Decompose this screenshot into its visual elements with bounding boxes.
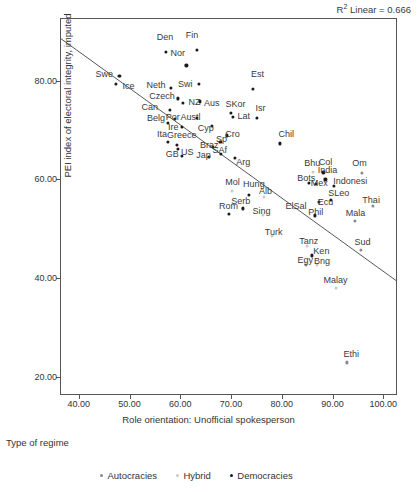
legend-marker-icon <box>100 474 103 477</box>
x-tick-label: 70.00 <box>220 399 243 409</box>
legend-marker-icon <box>176 474 179 477</box>
data-point-label: Greece <box>167 130 197 140</box>
data-point-label: Czech <box>149 91 175 101</box>
data-point-label: Swi <box>178 79 193 89</box>
x-tick-label: 50.00 <box>118 399 141 409</box>
data-point-label: Sud <box>354 237 370 247</box>
data-point-label: Aus <box>204 98 220 108</box>
data-point-label: Cro <box>225 129 240 139</box>
legend-item-label: Democracies <box>237 470 292 481</box>
r-squared-value-text: Linear = 0.666 <box>347 4 411 15</box>
data-point-label: Chil <box>279 129 295 139</box>
data-point-label: Por <box>166 112 180 122</box>
data-point-label: Phil <box>308 207 323 217</box>
data-point-label: Swe <box>95 69 113 79</box>
legend-item[interactable]: Hybrid <box>176 470 211 481</box>
legend-title: Type of regime <box>6 437 69 448</box>
data-point-label: SAf <box>213 145 228 155</box>
data-point-label: Rom <box>219 201 238 211</box>
data-point-label: Belg <box>147 113 165 123</box>
data-point-label: Tanz <box>299 236 318 246</box>
x-tick-label: 60.00 <box>169 399 192 409</box>
data-point-label: US <box>181 147 194 157</box>
y-tick-label: 40.00 <box>34 273 57 283</box>
data-point-label: Ecu <box>318 197 334 207</box>
data-point-label: Est <box>251 69 264 79</box>
data-point-label: Egy <box>297 255 313 265</box>
data-point-label: Ita <box>157 129 167 139</box>
scatter-plot-figure: R2 Linear = 0.666 20.0040.0060.0080.00 4… <box>0 0 417 492</box>
legend-marker-icon <box>230 474 233 477</box>
data-point <box>335 286 338 289</box>
legend-item-label: Autocracies <box>107 470 157 481</box>
data-point-label: Jap <box>196 150 211 160</box>
y-tick-label: 20.00 <box>34 372 57 382</box>
r-squared-annotation: R2 Linear = 0.666 <box>337 3 411 15</box>
data-point-label: Neth <box>146 80 165 90</box>
data-point-label: Mala <box>346 208 366 218</box>
data-point-label: NZ <box>188 97 200 107</box>
data-point-label: Alb <box>259 186 272 196</box>
legend-item-label: Hybrid <box>183 470 210 481</box>
plot-area: 20.0040.0060.0080.00 40.0050.0060.0070.0… <box>60 18 397 395</box>
legend-item[interactable]: Autocracies <box>100 470 157 481</box>
data-point-label: Ken <box>313 246 329 256</box>
x-axis-label: Role orientation: Unofficial spokesperso… <box>0 414 417 425</box>
data-point-label: Isr <box>255 103 265 113</box>
data-point-label: Bng <box>314 256 330 266</box>
data-point-label: Thai <box>362 195 380 205</box>
data-point-label: Malay <box>324 275 348 285</box>
data-point-label: Den <box>157 32 174 42</box>
y-axis-label: PEI index of electoral integrity, impute… <box>62 0 73 211</box>
data-point-label: Cyp <box>198 123 214 133</box>
data-point-label: Austl <box>180 112 200 122</box>
data-point-label: Ice <box>122 81 134 91</box>
data-point-label: Om <box>352 158 367 168</box>
x-tick-label: 90.00 <box>321 399 344 409</box>
data-point-label: GB <box>166 149 179 159</box>
x-tick-label: 80.00 <box>271 399 294 409</box>
data-point-label: Nor <box>170 48 185 58</box>
data-point-label: Indonesi <box>333 176 367 186</box>
x-tick-label: 40.00 <box>67 399 90 409</box>
data-point-label: Ethi <box>344 349 360 359</box>
data-point-label: Lat <box>237 111 250 121</box>
legend: AutocraciesHybridDemocracies <box>100 470 307 481</box>
data-point-label: Sing <box>252 206 270 216</box>
data-point-label: Arg <box>236 157 250 167</box>
y-tick-label: 60.00 <box>34 174 57 184</box>
data-point <box>262 196 265 199</box>
legend-item[interactable]: Democracies <box>230 470 293 481</box>
data-point-label: Can <box>142 102 159 112</box>
x-tick-label: 100.00 <box>370 399 398 409</box>
data-point-label: Mex <box>311 178 328 188</box>
data-point-label: Fin <box>186 30 199 40</box>
data-point-label: ElSal <box>285 201 306 211</box>
data-point-label: Turk <box>265 227 283 237</box>
data-point-label: Mol <box>225 177 240 187</box>
data-point <box>231 190 234 193</box>
y-tick-label: 80.00 <box>34 76 57 86</box>
data-point-label: SKor <box>226 99 246 109</box>
data-point-label: India <box>318 165 338 175</box>
